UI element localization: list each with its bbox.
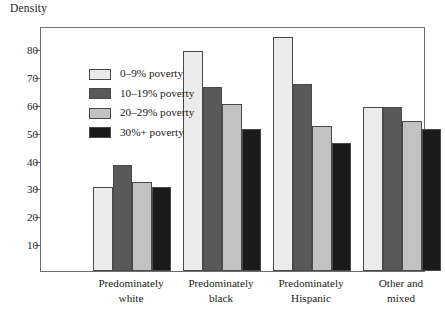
y-tick-label: 60 — [27, 100, 38, 111]
bar — [293, 84, 313, 271]
x-axis-label-line1: Other and — [379, 277, 423, 289]
legend-item: 10–19% poverty — [89, 86, 234, 102]
bars-layer — [41, 28, 424, 271]
bar — [332, 143, 352, 271]
bar — [113, 165, 133, 271]
y-tick-label: 50 — [27, 128, 38, 139]
bar — [273, 37, 293, 271]
bar-group — [183, 28, 261, 271]
legend-label: 0–9% poverty — [120, 68, 183, 79]
legend-swatch — [89, 108, 111, 119]
legend-swatch — [89, 127, 111, 138]
x-axis-label-line1: Predominately — [98, 277, 163, 289]
plot-area: 1020304050607080 0–9% poverty10–19% pove… — [40, 27, 425, 272]
legend-item: 0–9% poverty — [89, 66, 234, 82]
bar — [422, 129, 442, 271]
bar — [383, 107, 403, 271]
y-tick-label: 30 — [27, 184, 38, 195]
legend-label: 20–29% poverty — [120, 107, 194, 118]
bar — [402, 121, 422, 271]
x-axis-label-line2: mixed — [346, 291, 445, 306]
chart-legend: 0–9% poverty10–19% poverty20–29% poverty… — [89, 66, 234, 144]
legend-item: 30%+ poverty — [89, 125, 234, 141]
bar — [152, 187, 172, 271]
legend-swatch — [89, 88, 111, 99]
x-axis-label-line1: Predominately — [188, 277, 253, 289]
x-axis-label-line1: Predominately — [278, 277, 343, 289]
y-axis-title: Density — [10, 2, 47, 14]
bar-group — [363, 28, 441, 271]
legend-label: 10–19% poverty — [120, 88, 194, 99]
bar — [132, 182, 152, 271]
x-axis-labels: PredominatelywhitePredominatelyblackPred… — [40, 276, 425, 316]
legend-item: 20–29% poverty — [89, 105, 234, 121]
y-tick-label: 20 — [27, 212, 38, 223]
y-tick-label: 10 — [27, 240, 38, 251]
bar — [242, 129, 262, 271]
bar-group — [93, 28, 171, 271]
y-tick-label: 40 — [27, 156, 38, 167]
y-tick-label: 70 — [27, 73, 38, 84]
legend-label: 30%+ poverty — [120, 127, 184, 138]
bar — [312, 126, 332, 271]
x-axis-label: Other andmixed — [346, 276, 445, 305]
legend-swatch — [89, 69, 111, 80]
y-tick-label: 80 — [27, 45, 38, 56]
bar-group — [273, 28, 351, 271]
bar — [363, 107, 383, 271]
bar — [93, 187, 113, 271]
